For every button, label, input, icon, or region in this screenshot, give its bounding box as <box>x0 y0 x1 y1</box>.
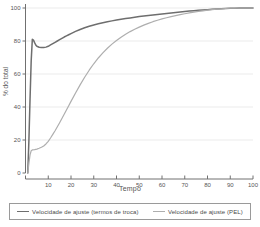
y-axis <box>23 4 26 173</box>
y-tick-label: 80 <box>14 38 21 44</box>
series-line <box>28 8 253 173</box>
y-tick-label: 40 <box>14 104 21 110</box>
legend-item-label: Velocidade de ajuste (PEL) <box>168 209 243 215</box>
y-tick-label: 100 <box>10 5 21 11</box>
series-lines <box>28 8 253 173</box>
y-axis-title: % do total <box>2 56 9 108</box>
y-tick-label: 60 <box>14 71 21 77</box>
series-line <box>28 8 253 173</box>
chart-figure: 020406080100 102030405060708090100 % do … <box>0 0 260 227</box>
y-tick-label: 20 <box>14 137 21 143</box>
line-chart-svg: 020406080100 102030405060708090100 <box>0 0 260 196</box>
legend-item-pel: Velocidade de ajuste (PEL) <box>153 209 243 215</box>
x-axis-title: Tempo <box>0 185 260 192</box>
y-tick-labels: 020406080100 <box>10 5 21 176</box>
legend-swatch-line <box>17 211 29 212</box>
plot-region: 020406080100 102030405060708090100 % do … <box>0 0 260 196</box>
legend-item-label: Velocidade de ajuste (termos de troca) <box>32 209 139 215</box>
legend-item-termos-de-troca: Velocidade de ajuste (termos de troca) <box>17 209 139 215</box>
y-tick-label: 0 <box>17 170 21 176</box>
x-axis <box>26 176 254 180</box>
chart-legend: Velocidade de ajuste (termos de troca) V… <box>9 203 251 220</box>
legend-swatch-line <box>153 211 165 212</box>
